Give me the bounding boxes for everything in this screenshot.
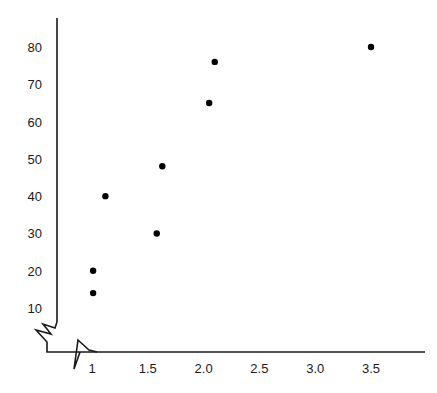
y-axis-tick-label: 70 <box>0 78 42 91</box>
y-axis-tick-label: 20 <box>0 264 42 277</box>
x-axis-tick-label: 2.5 <box>250 362 268 375</box>
data-points-group <box>90 44 374 296</box>
x-axis-tick-label: 2.0 <box>195 362 213 375</box>
x-axis-tick-label: 3.5 <box>362 362 380 375</box>
plot-area <box>0 0 437 393</box>
x-axis-tick-label: 1 <box>88 362 95 375</box>
y-axis-tick-label: 30 <box>0 227 42 240</box>
y-axis-tick-label: 60 <box>0 115 42 128</box>
data-point <box>159 163 165 169</box>
y-axis-tick-label: 50 <box>0 152 42 165</box>
data-point <box>102 193 108 199</box>
x-axis-tick-label: 1.5 <box>139 362 157 375</box>
y-axis-break-icon <box>36 322 80 352</box>
scatter-chart: 1020304050607080 11.52.02.53.03.5 <box>0 0 437 393</box>
x-axis-tick-label: 3.0 <box>306 362 324 375</box>
data-point <box>154 230 160 236</box>
data-point <box>212 59 218 65</box>
data-point <box>90 268 96 274</box>
y-axis-tick-label: 40 <box>0 190 42 203</box>
data-point <box>90 290 96 296</box>
data-point <box>368 44 374 50</box>
axes-group <box>36 18 425 369</box>
data-point <box>206 100 212 106</box>
y-axis-tick-label: 10 <box>0 302 42 315</box>
y-axis-tick-label: 80 <box>0 41 42 54</box>
